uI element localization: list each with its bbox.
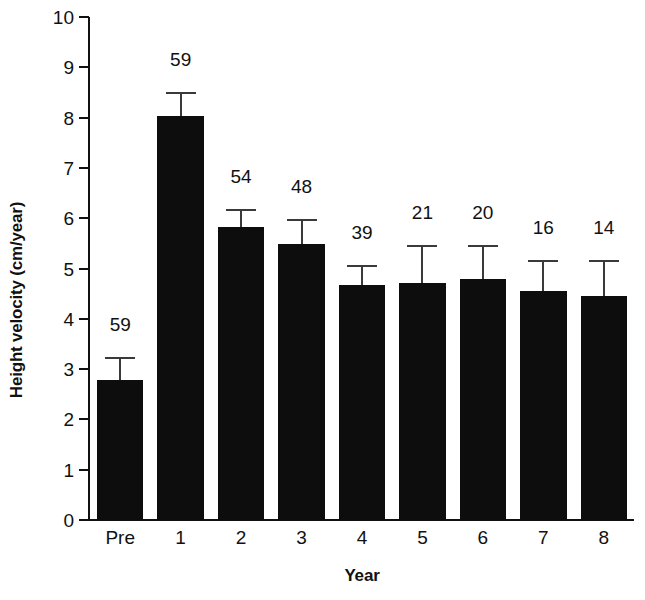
bar-group: 48 [278,17,325,520]
bar-value-label: 16 [533,218,554,237]
bar-value-label: 20 [472,203,493,222]
y-axis-tick-label: 0 [63,511,74,530]
bar-value-label: 48 [291,177,312,196]
error-bar-cap [407,245,437,247]
bar [278,244,325,520]
bar [581,296,628,520]
bar-value-label: 39 [351,223,372,242]
y-axis-tick-label: 7 [63,158,74,177]
error-bar-cap [589,260,619,262]
error-bar-stem [603,262,605,296]
y-axis-tick-mark [79,268,89,270]
x-axis-tick-label: 7 [538,528,549,547]
y-axis-tick-label: 9 [63,58,74,77]
error-bar-cap [528,260,558,262]
y-axis-tick-mark [79,368,89,370]
bar-group: 39 [339,17,386,520]
bar-value-label: 59 [170,50,191,69]
error-bar-stem [180,94,182,116]
y-axis-tick-mark [79,418,89,420]
error-bar-stem [482,247,484,278]
x-axis-tick-label: 2 [236,528,247,547]
error-bar-stem [119,359,121,380]
error-bar-cap [347,265,377,267]
error-bar-cap [105,357,135,359]
bar-value-label: 14 [593,218,614,237]
y-axis-tick-mark [79,318,89,320]
bar-value-label: 21 [412,203,433,222]
error-bar-cap [226,209,256,211]
plot-area: 595954483921201614 [90,17,634,520]
error-bar-stem [542,262,544,291]
x-axis-tick-label: 1 [175,528,186,547]
y-axis-title-text: Height velocity (cm/year) [7,202,27,398]
x-axis-tick-label: 5 [417,528,428,547]
bar-group: 54 [218,17,265,520]
bar-group: 59 [157,17,204,520]
bar [399,283,446,520]
bar-group: 21 [399,17,446,520]
y-axis-tick-mark [79,66,89,68]
bar-group: 59 [97,17,144,520]
y-axis-tick-label: 10 [53,8,74,27]
y-axis-tick-mark [79,167,89,169]
y-axis-tick-mark [79,16,89,18]
error-bar-stem [240,211,242,228]
bar [157,116,204,520]
x-axis-tick-label: 6 [478,528,489,547]
height-velocity-bar-chart: Height velocity (cm/year) 012345678910 5… [0,0,645,600]
y-axis-tick-mark [79,217,89,219]
y-axis-tick-label: 3 [63,360,74,379]
y-axis-tick-mark [79,469,89,471]
y-axis-tick-label: 2 [63,410,74,429]
y-axis-tick-label: 1 [63,460,74,479]
bar-group: 14 [581,17,628,520]
error-bar-stem [421,247,423,282]
bar-group: 20 [460,17,507,520]
x-axis-tick-label: 8 [598,528,609,547]
error-bar-cap [166,92,196,94]
bar [218,227,265,520]
y-axis-tick-label: 6 [63,209,74,228]
y-axis-tick-labels: 012345678910 [42,0,74,600]
bar-group: 16 [520,17,567,520]
bar [520,291,567,520]
error-bar-cap [287,219,317,221]
y-axis-title: Height velocity (cm/year) [0,0,34,600]
error-bar-stem [361,267,363,285]
x-axis-tick-label: Pre [105,528,135,547]
error-bar-stem [301,221,303,245]
bar-value-label: 54 [231,167,252,186]
x-axis-tick-label: 3 [296,528,307,547]
y-axis-tick-label: 4 [63,309,74,328]
y-axis-tick-mark [79,117,89,119]
bar-value-label: 59 [110,315,131,334]
x-axis-title: Year [90,566,634,586]
bar [97,380,144,520]
y-axis-tick-mark [79,519,89,521]
bar [460,279,507,520]
x-axis-tick-label: 4 [357,528,368,547]
y-axis-tick-label: 8 [63,108,74,127]
bar [339,285,386,520]
y-axis-tick-label: 5 [63,259,74,278]
error-bar-cap [468,245,498,247]
x-axis-tick-labels: Pre12345678 [90,528,634,558]
